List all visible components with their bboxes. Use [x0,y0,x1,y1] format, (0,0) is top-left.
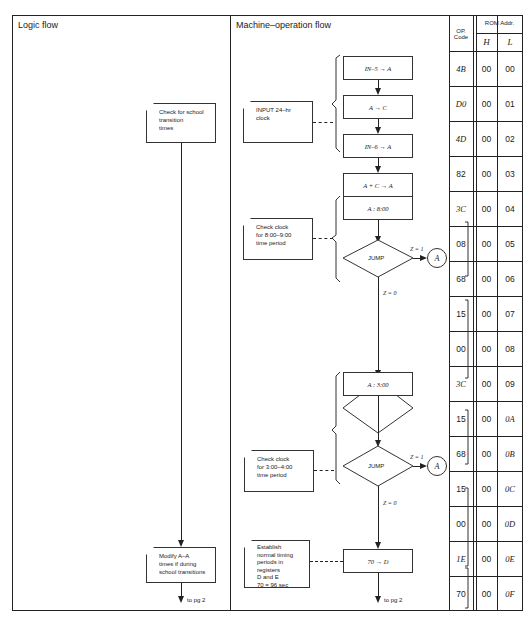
text: time period [257,471,307,479]
text: Check clock [257,455,307,463]
dashed-connector [313,238,333,239]
jump-label-2: JUMP [368,463,384,469]
text: INPUT 24–hr [256,106,306,114]
z1-label: Z = 1 [410,246,423,252]
note-check-8: Check clock for 8:00–9:00 time period [243,218,313,260]
note-input-clock: INPUT 24–hr clock [243,101,313,143]
text: D and E [257,574,303,582]
text: periods in registers [257,559,303,574]
dashed-connector [314,470,334,471]
text: for 8:00–9:00 [256,231,306,239]
dashed-connector [313,122,333,123]
connector-a-2: A [427,456,447,476]
z1-label: Z = 1 [410,454,423,460]
to-page-label: to pg 2 [384,597,402,603]
text: clock [256,114,306,122]
text: time period [256,239,306,247]
flow-line [378,486,379,546]
z0-label: Z = 0 [383,290,396,296]
note-check-3: Check clock for 3:00–4:00 time period [244,450,314,492]
text: normal timing [257,552,303,560]
arrow-down-icon [375,542,381,549]
arrow-down-icon [375,596,381,603]
jump-label-1: JUMP [368,255,384,261]
flow-line [378,396,379,444]
text: for 3:00–4:00 [257,463,307,471]
step-compare-300: A : 3:00 [343,372,413,396]
flow-line [378,573,379,598]
text: Check clock [256,223,306,231]
arrow-right-icon [420,255,427,261]
text: 70 = 96 sec [257,582,303,590]
arrow-right-icon [420,463,427,469]
z0-label: Z = 0 [383,500,396,506]
step-70-to-d: 70 → D [343,549,413,573]
note-establish: Establish normal timing periods in regis… [244,540,310,588]
dashed-connector [310,561,343,562]
jump-diamond-1 [0,0,527,619]
connector-a-1: A [427,248,447,268]
text: Establish [257,544,303,552]
flow-line [378,277,379,377]
